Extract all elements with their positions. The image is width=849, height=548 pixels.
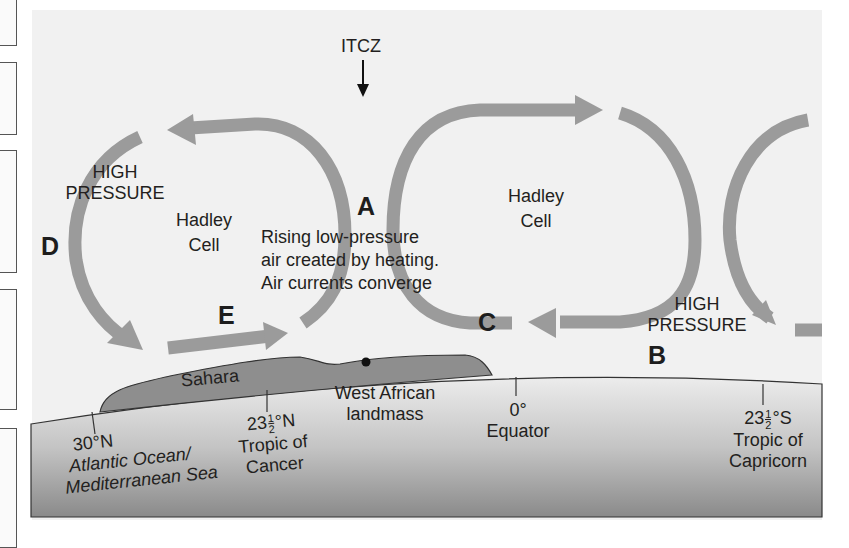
tropic-capricorn-line2: Tropic of [722,430,814,451]
label-b: B [648,341,666,370]
surface-arrow-e [168,336,270,348]
latitude-tropic-capricorn: 2312°S Tropic of Capricorn [722,408,814,472]
itcz-description-line1: Rising low-pressure [261,226,439,249]
hadley-cell-left-line2: Cell [168,235,240,256]
hadley-cell-right-line1: Hadley [500,186,572,207]
hadley-cell-label-left: Hadley Cell [168,210,240,256]
west-african-line1: West African [330,383,440,404]
west-african-landmass-label: West African landmass [330,383,440,425]
west-african-line2: landmass [330,404,440,425]
label-c: C [478,308,496,337]
equator-label: Equator [476,421,560,442]
latitude-equator: 0° Equator [476,400,560,442]
itcz-surface-dot [362,358,371,367]
high-pressure-label-left: HIGH PRESSURE [60,162,170,204]
high-pressure-right-line2: PRESSURE [640,315,754,336]
far-right-cell-arc [729,120,808,318]
tropic-capricorn-value: 2312°S [722,408,814,430]
arrowhead-c-return [528,308,556,338]
itcz-label: ITCZ [341,36,381,57]
itcz-description-line2: air created by heating. [261,249,439,272]
high-pressure-label-right: HIGH PRESSURE [640,294,754,336]
latitude-tropic-cancer: 2312°N Tropic of Cancer [225,408,320,479]
itcz-description: Rising low-pressure air created by heati… [261,226,439,295]
equator-value: 0° [476,400,560,421]
high-pressure-right-line1: HIGH [640,294,754,315]
label-e: E [218,301,235,330]
arrowhead-top-right [575,95,603,125]
right-cell-right-arc [560,113,695,322]
label-d: D [41,232,59,261]
label-a: A [357,192,375,221]
hadley-cell-left-line1: Hadley [168,210,240,231]
itcz-description-line3: Air currents converge [261,272,439,295]
tropic-capricorn-line3: Capricorn [722,451,814,472]
hadley-cell-label-right: Hadley Cell [500,186,572,232]
arrowhead-top-left [167,114,196,145]
high-pressure-left-line1: HIGH [60,162,170,183]
arrowhead-e [263,322,288,350]
hadley-cell-right-line2: Cell [500,211,572,232]
high-pressure-left-line2: PRESSURE [60,183,170,204]
